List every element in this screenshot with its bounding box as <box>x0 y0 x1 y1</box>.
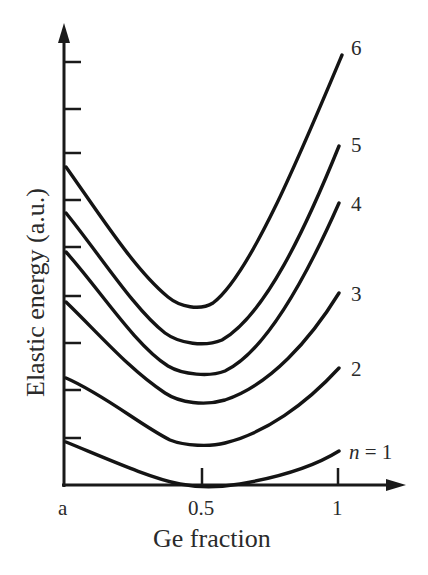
elastic-energy-chart: 6 5 4 3 2 n = 1 a 0.5 1 Ge fraction Elas… <box>0 0 428 575</box>
curve-label-n6: 6 <box>351 36 362 60</box>
curve-n3 <box>66 293 339 403</box>
curve-n5 <box>66 146 339 344</box>
x-tick-label-1: 1 <box>332 496 343 520</box>
curve-label-n1-var: n <box>349 440 360 464</box>
curve-label-n1-value: = 1 <box>360 440 393 464</box>
x-axis-title: Ge fraction <box>153 524 271 553</box>
curve-label-n5: 5 <box>351 133 362 157</box>
x-axis-arrow-icon <box>386 479 406 491</box>
curve-label-n1: n = 1 <box>349 440 392 464</box>
curves <box>66 55 342 487</box>
curve-n2 <box>66 368 339 445</box>
curve-label-n3: 3 <box>351 282 362 306</box>
x-origin-label: a <box>58 496 68 520</box>
curve-label-n2: 2 <box>351 357 362 381</box>
curve-label-n4: 4 <box>351 192 362 216</box>
x-tick-label-0-5: 0.5 <box>188 496 214 520</box>
y-axis-title: Elastic energy (a.u.) <box>21 188 50 397</box>
axes <box>62 38 392 487</box>
y-axis-arrow-icon <box>58 23 70 43</box>
